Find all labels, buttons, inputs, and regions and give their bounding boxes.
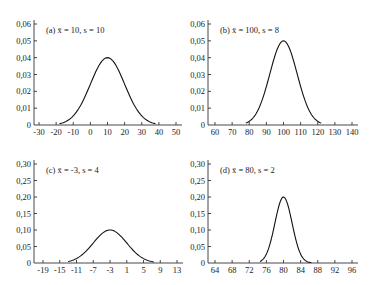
x-tick-label: 84 — [296, 265, 305, 275]
x-tick-label: -30 — [33, 127, 44, 137]
y-tick-label: 0 — [201, 258, 205, 268]
y-tick-label: 0,06 — [190, 19, 205, 29]
x-tick-label: 76 — [262, 265, 271, 275]
panel-c: 00,050,100,150,200,250,30-19-15-11-7-315… — [16, 159, 183, 275]
y-tick-label: 0,02 — [16, 86, 31, 96]
density-curve — [260, 197, 311, 263]
y-tick-label: 0,30 — [190, 159, 205, 169]
chart-area: 00,010,020,030,040,050,06-30-20-10010203… — [0, 0, 380, 285]
panel-title: (c) x̄ = -3, s = 4 — [46, 165, 100, 175]
density-curve — [60, 58, 156, 124]
x-tick-label: 5 — [141, 265, 145, 275]
panel-b: 00,010,020,030,040,050,06607080901001101… — [190, 19, 358, 137]
x-tick-label: 40 — [155, 127, 164, 137]
y-tick-label: 0,05 — [190, 242, 205, 252]
y-tick-label: 0,04 — [190, 53, 206, 63]
y-tick-label: 0,15 — [16, 209, 31, 219]
x-tick-label: 1 — [125, 265, 129, 275]
y-tick-label: 0,20 — [190, 192, 205, 202]
panel-a: 00,010,020,030,040,050,06-30-20-10010203… — [16, 19, 182, 137]
panel-d: 00,050,100,150,200,250,30646872768084889… — [190, 159, 358, 275]
x-tick-label: -7 — [90, 265, 97, 275]
panel-title: (a) x̄ = 10, s = 10 — [46, 25, 104, 35]
y-tick-label: 0 — [27, 120, 31, 130]
x-tick-label: 92 — [331, 265, 340, 275]
x-tick-label: 140 — [346, 127, 359, 137]
x-tick-label: -19 — [37, 265, 48, 275]
x-tick-label: 130 — [329, 127, 342, 137]
panel-title: (b) x̄ = 100, s = 8 — [220, 25, 279, 35]
y-tick-label: 0,06 — [16, 19, 31, 29]
y-tick-label: 0,20 — [16, 192, 31, 202]
x-tick-label: 64 — [211, 265, 220, 275]
x-tick-label: 120 — [311, 127, 324, 137]
y-tick-label: 0,25 — [190, 176, 205, 186]
x-tick-label: 9 — [158, 265, 162, 275]
y-tick-label: 0,01 — [190, 103, 205, 113]
y-tick-label: 0,02 — [190, 86, 205, 96]
x-tick-label: 50 — [172, 127, 181, 137]
y-tick-label: 0,04 — [16, 53, 32, 63]
y-tick-label: 0,10 — [16, 225, 31, 235]
x-tick-label: -20 — [50, 127, 61, 137]
y-tick-label: 0,30 — [16, 159, 31, 169]
normal-distribution-figure: 00,010,020,030,040,050,06-30-20-10010203… — [0, 0, 380, 285]
x-tick-label: 70 — [228, 127, 237, 137]
y-tick-label: 0 — [201, 120, 205, 130]
x-tick-label: 88 — [314, 265, 323, 275]
x-tick-label: 13 — [173, 265, 182, 275]
x-tick-label: 90 — [262, 127, 271, 137]
x-tick-label: 80 — [279, 265, 288, 275]
x-tick-label: 80 — [245, 127, 254, 137]
x-tick-label: 68 — [228, 265, 237, 275]
y-tick-label: 0,10 — [190, 225, 205, 235]
y-tick-label: 0,15 — [190, 209, 205, 219]
x-tick-label: -10 — [68, 127, 79, 137]
y-tick-label: 0,25 — [16, 176, 31, 186]
x-tick-label: 0 — [88, 127, 92, 137]
x-tick-label: 110 — [294, 127, 306, 137]
x-tick-label: 60 — [211, 127, 220, 137]
panel-title: (d) x̄ = 80, s = 2 — [220, 165, 275, 175]
y-tick-label: 0 — [27, 258, 31, 268]
y-tick-label: 0,05 — [16, 242, 31, 252]
x-tick-label: 20 — [120, 127, 129, 137]
x-tick-label: 72 — [245, 265, 254, 275]
x-tick-label: -3 — [106, 265, 113, 275]
density-curve — [68, 230, 154, 262]
x-tick-label: -15 — [54, 265, 65, 275]
y-tick-label: 0,03 — [16, 70, 31, 80]
y-tick-label: 0,01 — [16, 103, 31, 113]
x-tick-label: 30 — [138, 127, 147, 137]
x-tick-label: 100 — [277, 127, 290, 137]
x-tick-label: 96 — [348, 265, 357, 275]
density-curve — [246, 41, 321, 123]
x-tick-label: -11 — [71, 265, 82, 275]
y-tick-label: 0,05 — [16, 36, 31, 46]
x-tick-label: 10 — [103, 127, 112, 137]
y-tick-label: 0,05 — [190, 36, 205, 46]
y-tick-label: 0,03 — [190, 70, 205, 80]
